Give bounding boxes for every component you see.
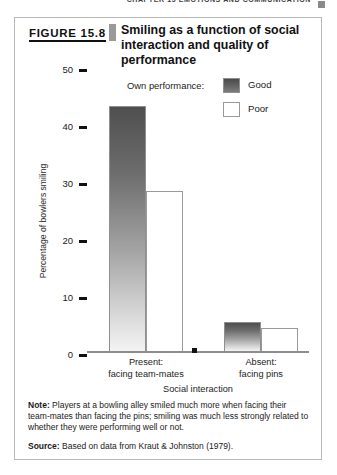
x-category-absent-line1: Absent: bbox=[215, 357, 307, 369]
bar-present-poor bbox=[146, 191, 183, 351]
y-tick-mark bbox=[79, 354, 87, 357]
bar-present-good bbox=[109, 106, 146, 351]
chart-plot-area: Percentage of bowlers smiling 50 40 30 2… bbox=[15, 66, 323, 396]
x-category-present-line2: facing team-mates bbox=[99, 369, 193, 381]
square-marker-icon bbox=[318, 1, 325, 8]
figure-title-row: FIGURE 15.8 Smiling as a function of soc… bbox=[15, 22, 321, 66]
x-category-absent-line2: facing pins bbox=[215, 369, 307, 381]
bar-absent-poor bbox=[261, 328, 298, 351]
bar-absent-good bbox=[224, 322, 261, 351]
source-paragraph: Source: Based on data from Kraut & Johns… bbox=[28, 441, 310, 452]
x-category-present-line1: Present: bbox=[99, 357, 193, 369]
title-divider bbox=[109, 24, 116, 41]
figure-container: FIGURE 15.8 Smiling as a function of soc… bbox=[14, 17, 322, 460]
running-header: CHAPTER 15 EMOTIONS AND COMMUNICATION bbox=[0, 0, 337, 11]
figure-number: FIGURE 15.8 bbox=[29, 27, 106, 42]
note-paragraph: Note: Players at a bowling alley smiled … bbox=[28, 400, 310, 434]
source-text: Based on data from Kraut & Johnston (197… bbox=[60, 441, 233, 451]
x-category-present: Present: facing team-mates bbox=[99, 357, 193, 380]
figure-notes: Note: Players at a bowling alley smiled … bbox=[28, 400, 310, 459]
x-axis-label: Social interaction bbox=[87, 384, 309, 394]
running-header-text: CHAPTER 15 EMOTIONS AND COMMUNICATION bbox=[127, 0, 311, 3]
note-lead: Note: bbox=[28, 400, 50, 410]
x-category-absent: Absent: facing pins bbox=[215, 357, 307, 380]
bars-layer bbox=[15, 66, 323, 352]
x-axis-baseline bbox=[87, 351, 309, 353]
x-axis-mid-tick bbox=[192, 348, 197, 353]
note-text: Players at a bowling alley smiled much m… bbox=[28, 400, 308, 432]
source-lead: Source: bbox=[28, 441, 60, 451]
page-title: Smiling as a function of social interact… bbox=[121, 23, 317, 68]
